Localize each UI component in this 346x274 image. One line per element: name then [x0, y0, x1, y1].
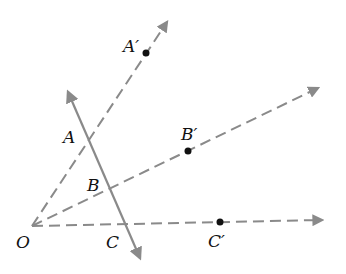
label-C-prime: C′ — [208, 231, 225, 251]
label-A-prime: A′ — [121, 36, 139, 56]
label-B: B — [86, 175, 100, 195]
dilation-diagram: O A B C A′ B′ C′ — [0, 0, 346, 274]
point-B-prime — [185, 148, 192, 155]
label-B-prime: B′ — [180, 124, 197, 144]
point-C-prime — [217, 219, 224, 226]
point-A-prime — [143, 50, 150, 57]
label-C: C — [106, 232, 119, 252]
ray-OC-prime — [32, 220, 322, 226]
transversal-line-ABC — [68, 92, 140, 258]
label-A: A — [61, 127, 75, 147]
label-O: O — [16, 232, 30, 252]
